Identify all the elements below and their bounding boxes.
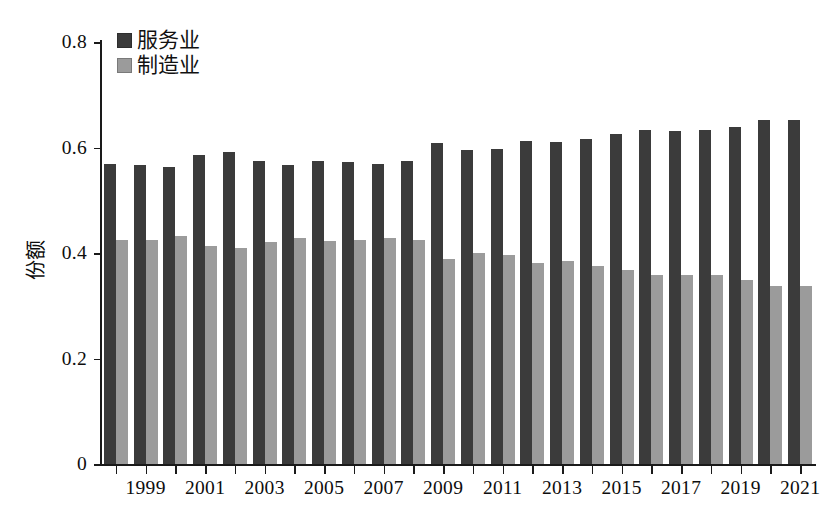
bar-group (488, 42, 518, 464)
bar-manufacturing-2008 (413, 240, 425, 464)
bar-manufacturing-2006 (354, 240, 366, 464)
y-tick (94, 148, 101, 150)
bar-group (101, 42, 131, 464)
x-tick-label: 2013 (542, 477, 582, 499)
y-tick-label: 0.8 (62, 31, 87, 53)
x-tick-label: 2021 (780, 477, 820, 499)
y-tick-label: 0.2 (62, 348, 87, 370)
y-tick (94, 253, 101, 255)
x-tick (770, 466, 772, 474)
y-tick-label: 0.4 (62, 242, 87, 264)
bar-manufacturing-2007 (384, 238, 396, 464)
bar-manufacturing-2017 (681, 275, 693, 464)
bar-manufacturing-2000 (175, 236, 187, 464)
bar-services-2012 (520, 141, 532, 464)
bar-group (161, 42, 191, 464)
bar-manufacturing-2005 (324, 241, 336, 464)
bar-group (726, 42, 756, 464)
x-tick (532, 466, 534, 474)
bar-manufacturing-1998 (116, 240, 128, 464)
x-tick-label: 2003 (245, 477, 285, 499)
bar-manufacturing-2010 (473, 253, 485, 464)
x-tick-label: 2001 (185, 477, 225, 499)
bar-group (547, 42, 577, 464)
bar-group (131, 42, 161, 464)
bar-services-2005 (312, 161, 324, 464)
x-tick-label: 2009 (423, 477, 463, 499)
bar-services-2000 (163, 167, 175, 464)
bar-group (756, 42, 786, 464)
x-tick-label: 2017 (661, 477, 701, 499)
bar-group (518, 42, 548, 464)
x-tick (592, 466, 594, 474)
bar-group (428, 42, 458, 464)
bar-services-2004 (282, 165, 294, 464)
bar-chart: 份额 00.20.40.60.8 服务业 制造业 199920012003200… (0, 0, 831, 520)
bar-group (339, 42, 369, 464)
x-tick-label: 2019 (721, 477, 761, 499)
bar-services-2008 (401, 161, 413, 464)
bar-group (220, 42, 250, 464)
bar-group (190, 42, 220, 464)
bar-manufacturing-2021 (800, 286, 812, 464)
x-tick-label: 2007 (364, 477, 404, 499)
bar-services-2019 (729, 127, 741, 464)
legend-swatch-manufacturing (117, 58, 132, 73)
x-tick (443, 466, 445, 474)
x-tick (711, 466, 713, 474)
legend-label-services: 服务业 (137, 30, 200, 51)
bar-services-1999 (134, 165, 146, 464)
x-tick (116, 466, 118, 474)
bar-manufacturing-2018 (711, 275, 723, 464)
x-tick (473, 466, 475, 474)
y-tick (94, 359, 101, 361)
x-tick (205, 466, 207, 474)
x-tick (800, 466, 802, 474)
x-tick (265, 466, 267, 474)
y-tick-label: 0.6 (62, 137, 87, 159)
bar-group (280, 42, 310, 464)
x-tick (503, 466, 505, 474)
bar-manufacturing-2002 (235, 248, 247, 464)
bar-services-2017 (669, 131, 681, 464)
chart-legend: 服务业 制造业 (117, 30, 200, 76)
bar-manufacturing-2012 (532, 263, 544, 465)
bar-group (399, 42, 429, 464)
bar-manufacturing-2013 (562, 261, 574, 464)
bar-services-2001 (193, 155, 205, 464)
bar-group (696, 42, 726, 464)
y-axis-title: 份额 (20, 240, 49, 280)
x-tick-label: 1999 (126, 477, 166, 499)
x-tick (622, 466, 624, 474)
bar-group (577, 42, 607, 464)
bar-manufacturing-2019 (741, 280, 753, 464)
x-tick (146, 466, 148, 474)
bar-manufacturing-2003 (265, 242, 277, 464)
x-tick-label: 2011 (483, 477, 522, 499)
x-tick (354, 466, 356, 474)
bar-services-1998 (104, 164, 116, 464)
bar-services-2020 (758, 120, 770, 464)
bar-services-2006 (342, 162, 354, 464)
bar-manufacturing-2015 (622, 270, 634, 464)
bar-manufacturing-2011 (503, 255, 515, 464)
legend-item-manufacturing: 制造业 (117, 55, 200, 76)
bar-services-2021 (788, 120, 800, 464)
bar-manufacturing-2009 (443, 259, 455, 464)
y-tick-label: 0 (77, 453, 87, 475)
bar-services-2009 (431, 143, 443, 464)
legend-swatch-services (117, 33, 132, 48)
bar-services-2010 (461, 150, 473, 464)
bar-manufacturing-1999 (146, 240, 158, 464)
x-tick (562, 466, 564, 474)
bar-group (637, 42, 667, 464)
bar-manufacturing-2016 (651, 275, 663, 464)
bar-group (666, 42, 696, 464)
y-tick (94, 464, 101, 466)
bar-services-2003 (253, 161, 265, 464)
x-tick (681, 466, 683, 474)
x-axis-ticks: 1999200120032005200720092011201320152017… (101, 466, 815, 506)
y-tick (94, 42, 101, 44)
bar-services-2014 (580, 139, 592, 464)
x-tick (175, 466, 177, 474)
